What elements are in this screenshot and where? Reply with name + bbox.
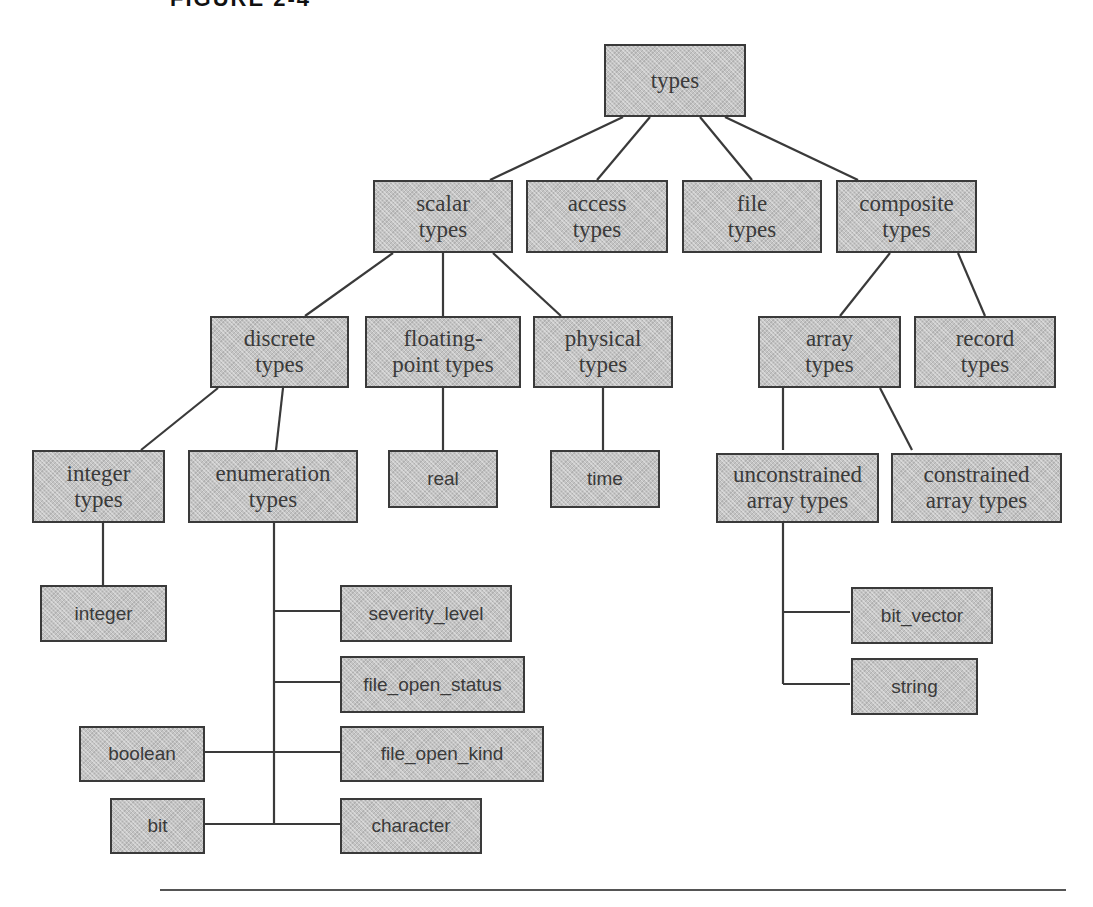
node-character: character <box>340 798 482 854</box>
node-integer-types: integer types <box>32 450 165 523</box>
node-label-line1: unconstrained <box>733 462 862 488</box>
node-physical-types: physical types <box>533 316 673 388</box>
node-label-line1: file <box>737 191 768 217</box>
node-label: integer <box>74 603 132 625</box>
node-boolean: boolean <box>79 726 205 782</box>
node-label-line1: floating- <box>403 326 482 352</box>
node-label-line2: types <box>961 352 1010 378</box>
node-types: types <box>604 44 746 117</box>
node-label-line2: types <box>882 217 931 243</box>
node-string: string <box>851 658 978 715</box>
node-label-line1: scalar <box>416 191 470 217</box>
node-unconstrained-array-types: unconstrained array types <box>716 453 879 523</box>
node-time: time <box>550 450 660 508</box>
bottom-rule <box>160 889 1066 891</box>
node-label-line2: types <box>255 352 304 378</box>
node-label-line2: types <box>573 217 622 243</box>
node-label: file_open_status <box>363 674 501 696</box>
node-label-line2: types <box>419 217 468 243</box>
node-label: string <box>891 676 937 698</box>
node-label-line2: types <box>805 352 854 378</box>
node-label-line2: point types <box>392 352 494 378</box>
node-label-line1: discrete <box>244 326 316 352</box>
node-label: time <box>587 468 623 490</box>
node-constrained-array-types: constrained array types <box>891 453 1062 523</box>
node-label-line2: array types <box>926 488 1028 514</box>
node-severity-level: severity_level <box>340 585 512 642</box>
node-real: real <box>388 450 498 508</box>
node-label: types <box>651 68 700 94</box>
node-label-line2: types <box>728 217 777 243</box>
node-file-open-kind: file_open_kind <box>340 726 544 782</box>
node-label-line1: enumeration <box>216 461 331 487</box>
node-bit: bit <box>110 798 205 854</box>
node-label-line1: composite <box>859 191 954 217</box>
node-record-types: record types <box>914 316 1056 388</box>
node-file-types: file types <box>682 180 822 253</box>
node-enumeration-types: enumeration types <box>188 450 358 523</box>
node-access-types: access types <box>526 180 668 253</box>
node-floating-point-types: floating- point types <box>365 316 521 388</box>
node-label: bit <box>147 815 167 837</box>
node-label-line2: types <box>74 487 123 513</box>
node-scalar-types: scalar types <box>373 180 513 253</box>
node-file-open-status: file_open_status <box>340 656 525 713</box>
node-discrete-types: discrete types <box>210 316 349 388</box>
node-label-line1: physical <box>565 326 642 352</box>
node-label: character <box>371 815 450 837</box>
node-label: bit_vector <box>881 605 963 627</box>
node-label-line2: types <box>579 352 628 378</box>
node-label-line1: array <box>806 326 853 352</box>
node-label-line2: types <box>249 487 298 513</box>
node-label: file_open_kind <box>381 743 504 765</box>
node-label-line1: constrained <box>923 462 1029 488</box>
node-label: severity_level <box>368 603 483 625</box>
node-label-line1: access <box>568 191 627 217</box>
node-composite-types: composite types <box>836 180 977 253</box>
node-label-line2: array types <box>747 488 849 514</box>
node-label-line1: record <box>956 326 1015 352</box>
node-bit-vector: bit_vector <box>851 587 993 644</box>
node-integer: integer <box>40 585 167 642</box>
node-label: real <box>427 468 459 490</box>
node-array-types: array types <box>758 316 901 388</box>
node-label: boolean <box>108 743 176 765</box>
node-label-line1: integer <box>67 461 131 487</box>
